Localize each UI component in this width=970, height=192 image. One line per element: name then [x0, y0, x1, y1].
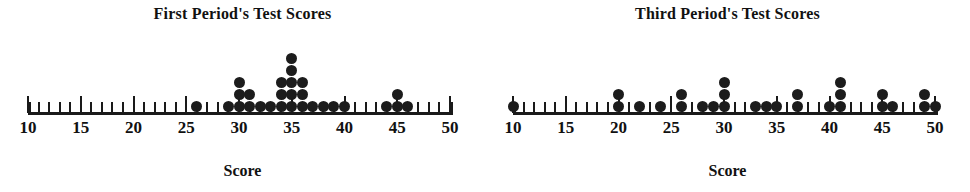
axis-tick-major	[670, 96, 672, 113]
data-dot	[877, 101, 888, 112]
axis-tick-minor	[860, 102, 862, 113]
data-dot	[877, 89, 888, 100]
axis-tick-label: 15	[61, 118, 101, 138]
axis-tick-minor	[438, 102, 440, 113]
axis-tick-label: 40	[810, 118, 850, 138]
axis-tick-label: 50	[430, 118, 470, 138]
data-dot	[771, 101, 782, 112]
axis-tick-minor	[354, 102, 356, 113]
axis-tick-major	[565, 96, 567, 113]
axis-tick-minor	[871, 102, 873, 113]
axis-tick-minor	[691, 102, 693, 113]
axis-tick-label: 25	[166, 118, 206, 138]
data-dot	[887, 101, 898, 112]
panel-title-third-period: Third Period's Test Scores	[485, 5, 970, 23]
axis-tick-minor	[850, 102, 852, 113]
axis-tick-minor	[417, 102, 419, 113]
data-dot	[297, 77, 308, 88]
data-dot	[234, 77, 245, 88]
axis-tick-minor	[101, 102, 103, 113]
axis-tick-label: 50	[915, 118, 955, 138]
data-dot	[328, 101, 339, 112]
data-dot	[792, 89, 803, 100]
axis-tick-major	[27, 96, 29, 113]
data-dot	[634, 101, 645, 112]
data-dot	[402, 101, 413, 112]
axis-tick-minor	[902, 102, 904, 113]
data-dot	[835, 89, 846, 100]
axis-tick-minor	[807, 102, 809, 113]
axis-tick-minor	[786, 102, 788, 113]
axis-tick-label: 30	[219, 118, 259, 138]
data-dot	[835, 101, 846, 112]
axis-tick-minor	[818, 102, 820, 113]
axis-tick-label: 45	[862, 118, 902, 138]
data-dot	[276, 101, 287, 112]
axis-tick-minor	[143, 102, 145, 113]
panel-first-period: First Period's Test Scores 1015202530354…	[0, 0, 485, 192]
axis-tick-minor	[586, 102, 588, 113]
axis-tick-major	[133, 96, 135, 113]
axis-tick-minor	[628, 102, 630, 113]
plot-area-third-period: 101520253035404550	[513, 30, 938, 158]
data-dot	[392, 89, 403, 100]
axis-tick-minor	[175, 102, 177, 113]
data-dot	[761, 101, 772, 112]
data-dot	[392, 101, 403, 112]
data-dot	[244, 89, 255, 100]
axis-tick-label: 35	[272, 118, 312, 138]
data-dot	[255, 101, 266, 112]
data-dot	[223, 101, 234, 112]
axis-tick-minor	[544, 102, 546, 113]
axis-tick-minor	[734, 102, 736, 113]
data-dot	[286, 101, 297, 112]
data-dot	[234, 101, 245, 112]
data-dot	[286, 77, 297, 88]
data-dot	[286, 89, 297, 100]
axis-tick-minor	[744, 102, 746, 113]
axis-tick-label: 30	[704, 118, 744, 138]
axis-tick-minor	[111, 102, 113, 113]
data-dot	[750, 101, 761, 112]
data-dot	[676, 89, 687, 100]
axis-tick-minor	[217, 102, 219, 113]
data-dot	[286, 65, 297, 76]
axis-tick-minor	[206, 102, 208, 113]
axis-tick-minor	[375, 102, 377, 113]
axis-tick-minor	[533, 102, 535, 113]
data-dot	[276, 77, 287, 88]
data-dot	[265, 101, 276, 112]
axis-tick-minor	[554, 102, 556, 113]
axis-tick-minor	[428, 102, 430, 113]
data-dot	[508, 101, 519, 112]
data-dot	[719, 101, 730, 112]
axis-tick-label: 10	[8, 118, 48, 138]
data-dot	[655, 101, 666, 112]
panel-title-first-period: First Period's Test Scores	[0, 5, 485, 23]
data-dot	[719, 77, 730, 88]
data-dot	[339, 101, 350, 112]
data-dot	[613, 101, 624, 112]
data-dot	[307, 101, 318, 112]
data-dot	[919, 101, 930, 112]
axis-tick-minor	[164, 102, 166, 113]
data-dot	[276, 89, 287, 100]
axis-tick-minor	[523, 102, 525, 113]
axis-tick-minor	[575, 102, 577, 113]
dot-plot-figure: First Period's Test Scores 1015202530354…	[0, 0, 970, 192]
data-dot	[234, 89, 245, 100]
data-dot	[930, 101, 941, 112]
axis-tick-minor	[122, 102, 124, 113]
axis-tick-label: 35	[757, 118, 797, 138]
axis-tick-label: 45	[377, 118, 417, 138]
axis-tick-major	[449, 96, 451, 113]
axis-tick-label: 40	[325, 118, 365, 138]
data-dot	[708, 101, 719, 112]
axis-tick-minor	[38, 102, 40, 113]
data-dot	[318, 101, 329, 112]
axis-tick-minor	[59, 102, 61, 113]
x-axis-title-third-period: Score	[485, 162, 970, 180]
data-dot	[676, 101, 687, 112]
axis-tick-label: 20	[114, 118, 154, 138]
data-dot	[719, 89, 730, 100]
